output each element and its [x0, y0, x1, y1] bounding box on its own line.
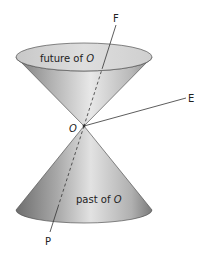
- E-label: E: [188, 93, 194, 104]
- future-label: future of O: [40, 53, 94, 64]
- P-label: P: [45, 236, 51, 247]
- light-cone-diagram: future of O past of O O F E P: [0, 0, 205, 257]
- past-label: past of O: [76, 194, 122, 205]
- F-label: F: [113, 13, 119, 24]
- origin-label: O: [69, 123, 77, 134]
- past-cone: [16, 126, 152, 223]
- origin-point: [83, 125, 86, 128]
